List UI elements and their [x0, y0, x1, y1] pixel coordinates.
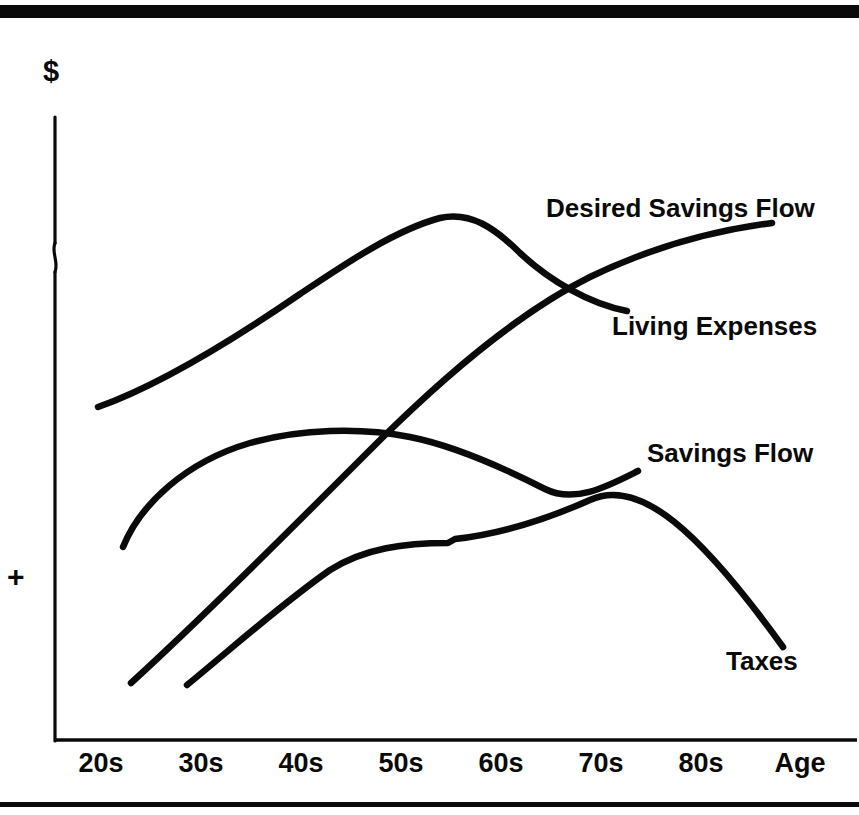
- series-label-taxes: Taxes: [726, 648, 798, 674]
- plot-area: [0, 0, 859, 815]
- x-tick-label-80s: 80s: [678, 750, 723, 777]
- x-tick-label-20s: 20s: [78, 750, 123, 777]
- y-axis-plus-label: +: [7, 562, 25, 592]
- series-label-desired-savings-flow: Desired Savings Flow: [546, 195, 815, 221]
- y-axis-break-squiggle: [54, 243, 56, 272]
- series-label-savings-flow: Savings Flow: [647, 440, 813, 466]
- series-line-taxes: [187, 495, 783, 685]
- y-axis-dollar-label: $: [43, 57, 59, 86]
- x-tick-label-40s: 40s: [278, 750, 323, 777]
- x-tick-label-70s: 70s: [578, 750, 623, 777]
- x-axis-title-age: Age: [774, 750, 825, 777]
- x-tick-label-30s: 30s: [178, 750, 223, 777]
- x-tick-label-60s: 60s: [478, 750, 523, 777]
- series-line-savings-flow: [123, 431, 638, 547]
- series-line-living-expenses: [98, 216, 627, 407]
- chart-figure: $ + 20s 30s 40s 50s 60s 70s 80s Age Desi…: [0, 0, 859, 815]
- x-tick-label-50s: 50s: [378, 750, 423, 777]
- series-label-living-expenses: Living Expenses: [612, 313, 817, 339]
